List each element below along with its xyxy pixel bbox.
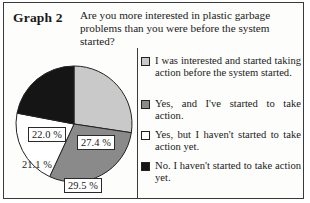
legend-item-0: I was interested and started taking acti… [141,55,301,79]
graph-label: Graph 2 [13,10,63,26]
pie-chart [4,48,137,199]
legend-label-2: Yes, but I haven't started to take actio… [155,129,301,153]
figure-header: Graph 2 Are you more interested in plast… [4,3,303,48]
pie-value-label-1: 29.5 % [64,178,102,193]
legend-label-0: I was interested and started taking acti… [155,55,301,79]
legend-item-3: No. I haven't started to take action yet… [141,160,301,184]
legend-swatch-black-icon [141,162,150,171]
legend-item-1: Yes, and I've started to take action. [141,98,301,122]
pie-value-label-0: 27.4 % [77,135,115,150]
legend-swatch-medium-gray-icon [141,100,150,109]
pie-slice-0 [74,66,132,133]
legend-swatch-light-gray-icon [141,57,150,66]
legend-label-1: Yes, and I've started to take action. [155,98,301,122]
legend-label-3: No. I haven't started to take action yet… [155,160,301,184]
legend: I was interested and started taking acti… [137,48,303,199]
survey-question-text: Are you more interested in plastic garba… [80,9,296,49]
legend-item-2: Yes, but I haven't started to take actio… [141,129,301,153]
figure-frame: Graph 2 Are you more interested in plast… [3,2,304,199]
legend-swatch-white-icon [141,131,150,140]
pie-chart-region: 27.4 % 29.5 % 21.1 % 22.0 % [4,48,137,199]
pie-value-label-2: 21.1 % [20,158,54,171]
pie-value-label-3: 22.0 % [28,127,66,142]
